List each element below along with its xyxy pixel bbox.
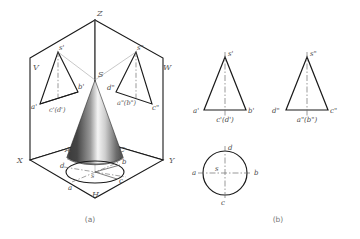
part-b-group: s' a' b' c'(d') s" d" c" a"(b") d a b c … <box>192 50 337 224</box>
label-v-center: c'(d') <box>49 106 66 114</box>
label-h-left: d <box>60 162 65 170</box>
label-top-c: c <box>221 199 225 207</box>
label-top-s: s <box>215 165 219 173</box>
label-axis-x: X <box>16 156 23 165</box>
label-top-d: d <box>228 144 233 152</box>
caption-part-b: (b) <box>273 215 284 224</box>
label-front-left: a' <box>193 107 199 115</box>
label-plane-w: W <box>163 63 172 72</box>
label-h-right: b <box>122 158 127 166</box>
caption-part-a: (a) <box>85 215 96 224</box>
label-w-right: c" <box>152 104 159 112</box>
label-side-center: a"(b") <box>297 116 318 124</box>
label-w-apex: s" <box>137 44 144 52</box>
label-top-b: b <box>254 169 259 177</box>
label-base-c: C <box>119 145 125 154</box>
label-cone-apex: S <box>98 70 104 79</box>
label-w-left: d" <box>107 84 115 92</box>
label-front-center: c'(d') <box>216 116 234 124</box>
label-h-bottom-right: c <box>119 177 123 185</box>
drawing-canvas: Z X Y V W H S s' a' b' c'(d') s" d" c" a… <box>0 0 360 239</box>
label-front-apex: s' <box>228 50 234 58</box>
label-plane-h: H <box>91 190 100 199</box>
label-v-left: a' <box>31 103 37 111</box>
label-v-apex: s' <box>59 44 65 52</box>
label-base-a: A <box>64 145 71 154</box>
technical-drawing-figure: Z X Y V W H S s' a' b' c'(d') s" d" c" a… <box>0 0 360 239</box>
part-a-group: Z X Y V W H S s' a' b' c'(d') s" d" c" a… <box>16 9 175 224</box>
label-front-right: b' <box>248 107 254 115</box>
label-v-right: b' <box>78 83 84 91</box>
label-side-left: d" <box>272 107 280 115</box>
label-h-top-left: a <box>68 184 72 192</box>
label-side-right: c" <box>330 107 337 115</box>
label-top-a: a <box>192 169 196 177</box>
label-w-center: a"(b") <box>117 99 137 107</box>
label-axis-z: Z <box>96 9 103 18</box>
label-axis-y: Y <box>169 156 175 165</box>
label-side-apex: s" <box>310 50 317 58</box>
